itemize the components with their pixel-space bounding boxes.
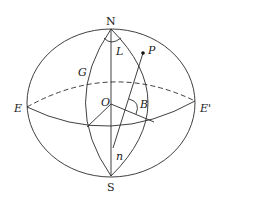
point-p-marker — [141, 51, 145, 55]
label-east-prime: E' — [199, 102, 211, 115]
label-angle-n: n — [116, 150, 123, 163]
label-north: N — [106, 15, 116, 28]
celestial-sphere-diagram: N S E E' O P G L B n — [0, 0, 253, 203]
label-south: S — [107, 181, 115, 194]
label-point-p: P — [147, 44, 156, 57]
label-east: E — [13, 102, 22, 115]
label-center-o: O — [101, 96, 110, 109]
line-p — [113, 53, 143, 148]
label-angle-b: B — [139, 98, 148, 111]
angle-arc-L — [104, 38, 121, 42]
label-meridian-g: G — [78, 66, 87, 79]
label-angle-l: L — [115, 45, 123, 58]
